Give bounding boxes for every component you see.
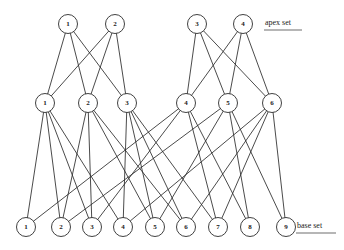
graph-node-base-8[interactable]: 8 (241, 218, 260, 237)
middle-node-group: 123456 (36, 94, 282, 113)
graph-node-middle-6[interactable]: 6 (263, 94, 282, 113)
node-label: 4 (241, 20, 245, 28)
node-label: 2 (59, 223, 63, 231)
graph-edge (190, 111, 245, 218)
graph-edge (273, 112, 285, 217)
graph-edge (93, 111, 151, 218)
node-label: 3 (195, 20, 199, 28)
node-label: 6 (184, 223, 188, 231)
node-label: 5 (153, 223, 157, 231)
graph-edge (230, 33, 241, 93)
graph-edge (98, 111, 181, 220)
graph-node-apex-3[interactable]: 3 (188, 15, 207, 34)
graph-node-middle-3[interactable]: 3 (118, 94, 137, 113)
graph-edge (123, 113, 126, 218)
graph-node-middle-1[interactable]: 1 (36, 94, 55, 113)
graph-node-base-6[interactable]: 6 (177, 218, 196, 237)
graph-edge (51, 31, 108, 96)
graph-edge (91, 33, 112, 94)
node-label: 1 (24, 223, 28, 231)
middle-to-base-edge-group (27, 109, 284, 222)
graph-figure: 123456789 123456 1234 apex setbase set (0, 0, 344, 250)
graph-node-middle-5[interactable]: 5 (219, 94, 238, 113)
graph-edge (94, 110, 180, 219)
base-set-label: base set (297, 221, 323, 230)
graph-node-base-2[interactable]: 2 (52, 218, 71, 237)
node-label: 8 (248, 223, 252, 231)
graph-node-base-7[interactable]: 7 (209, 218, 228, 237)
graph-edge (116, 33, 125, 93)
graph-edge (200, 33, 224, 94)
graph-node-base-9[interactable]: 9 (277, 218, 296, 237)
node-label: 5 (226, 99, 230, 107)
node-label: 3 (90, 223, 94, 231)
apex-set-label: apex set (265, 18, 292, 27)
graph-node-apex-2[interactable]: 2 (106, 15, 125, 34)
node-label: 7 (216, 223, 220, 231)
base-node-group: 123456789 (17, 218, 296, 237)
graph-node-base-1[interactable]: 1 (17, 218, 36, 237)
node-label: 4 (121, 223, 125, 231)
apex-node-group: 1234 (59, 15, 253, 34)
graph-node-apex-4[interactable]: 4 (234, 15, 253, 34)
graph-edge (74, 32, 122, 96)
graph-node-base-3[interactable]: 3 (83, 218, 102, 237)
graph-edge (160, 111, 223, 219)
graph-node-middle-4[interactable]: 4 (177, 94, 196, 113)
graph-edge (48, 33, 66, 94)
graph-edge (230, 112, 249, 217)
tripartite-graph-canvas: 123456789 123456 1234 apex setbase set (0, 0, 344, 250)
graph-edge (191, 111, 266, 219)
graph-edge (187, 33, 195, 93)
node-label: 2 (86, 99, 90, 107)
node-label: 3 (125, 99, 129, 107)
node-label: 1 (43, 99, 47, 107)
graph-edge (70, 33, 85, 94)
graph-edge (27, 112, 43, 217)
node-label: 2 (113, 20, 117, 28)
graph-node-base-4[interactable]: 4 (114, 218, 133, 237)
graph-edge (192, 32, 238, 96)
node-label: 1 (66, 20, 70, 28)
graph-edge (88, 113, 91, 218)
node-label: 9 (284, 223, 288, 231)
graph-node-apex-1[interactable]: 1 (59, 15, 78, 34)
graph-edge (188, 112, 215, 218)
graph-edge (50, 111, 118, 219)
node-label: 4 (184, 99, 188, 107)
graph-edge (246, 33, 268, 94)
graph-node-middle-2[interactable]: 2 (79, 94, 98, 113)
apex-to-middle-edge-group (48, 31, 269, 96)
node-label: 6 (270, 99, 274, 107)
graph-node-base-5[interactable]: 5 (146, 218, 165, 237)
graph-edge (46, 112, 60, 217)
